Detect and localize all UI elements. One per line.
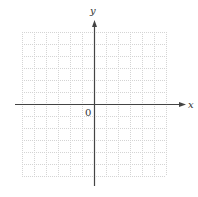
origin-label: 0: [85, 107, 91, 118]
y-axis-label: y: [89, 5, 96, 16]
x-axis-label: x: [188, 99, 194, 110]
coordinate-plane: y x 0: [0, 0, 198, 197]
x-axis-arrow-icon: [179, 102, 186, 107]
y-axis-arrow-icon: [92, 20, 97, 27]
